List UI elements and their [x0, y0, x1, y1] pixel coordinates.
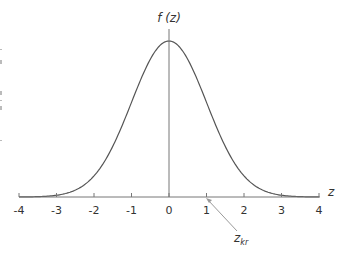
x-tick-label: 3 [278, 204, 285, 217]
annotation-label: zkr [233, 231, 249, 247]
x-tick-label: 0 [166, 204, 173, 217]
x-tick-label: -3 [51, 204, 62, 217]
x-tick-label: 2 [241, 204, 248, 217]
left-edge-artifacts [0, 49, 2, 141]
x-tick-label: 1 [203, 204, 210, 217]
annotation-arrow [208, 200, 237, 231]
y-axis-title: f (z) [157, 11, 181, 25]
arrow-head-icon [206, 198, 212, 203]
x-tick-label: 4 [316, 204, 323, 217]
x-tick-label: -4 [14, 204, 25, 217]
normal-distribution-chart: -4-3-2-101234 f (z) z zkr [0, 0, 345, 257]
x-tick-label: -1 [126, 204, 137, 217]
x-tick-label: -2 [89, 204, 100, 217]
x-axis-title: z [327, 185, 335, 199]
